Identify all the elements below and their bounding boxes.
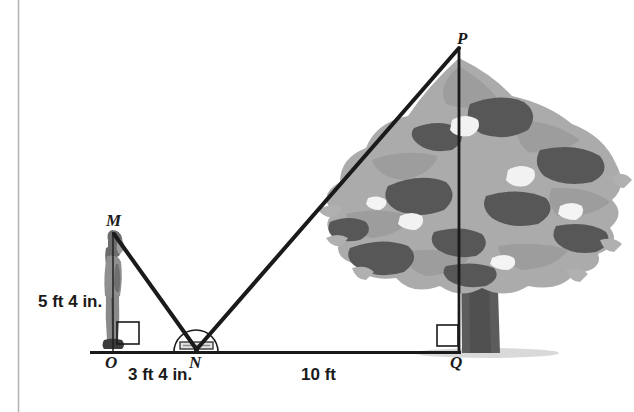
point-label-P: P <box>457 30 467 47</box>
right-angle-mark-at-Q <box>437 325 458 346</box>
geometry-figure <box>0 0 634 412</box>
point-label-Q: Q <box>450 354 462 371</box>
ray-M-to-N <box>114 234 197 350</box>
tree-graphic <box>318 58 632 358</box>
tree-canopy <box>318 58 632 294</box>
measurement-N-to-Q: 10 ft <box>301 366 336 383</box>
measurement-O-to-N: 3 ft 4 in. <box>128 366 192 383</box>
point-label-O: O <box>105 354 117 371</box>
diagram-canvas: M O N P Q 5 ft 4 in. 3 ft 4 in. 10 ft <box>0 0 634 412</box>
point-label-M: M <box>106 212 121 229</box>
measurement-person-height: 5 ft 4 in. <box>38 293 102 310</box>
